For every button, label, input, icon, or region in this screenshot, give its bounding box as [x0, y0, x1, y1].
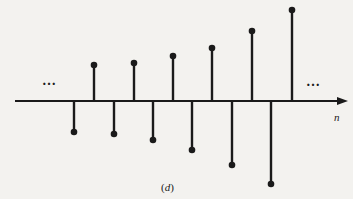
stem: [229, 101, 236, 168]
left-ellipsis: …: [42, 76, 57, 86]
stem: [268, 101, 275, 187]
axis-arrow-icon: [337, 97, 348, 105]
stem: [249, 28, 256, 101]
stem-dot-marker: [71, 129, 78, 136]
stem-dot-marker: [131, 60, 138, 67]
stem: [189, 101, 196, 153]
stem: [71, 101, 78, 135]
stem: [170, 53, 177, 101]
figure-caption: (d): [161, 181, 174, 193]
stem-dot-marker: [111, 131, 118, 138]
stem-dot-marker: [91, 62, 98, 69]
stem: [131, 60, 138, 101]
stem: [209, 45, 216, 101]
stem-dot-marker: [209, 45, 216, 52]
stem-dot-marker: [189, 147, 196, 154]
stem: [289, 7, 296, 101]
stem: [150, 101, 157, 143]
right-ellipsis: …: [306, 77, 321, 87]
stem-dot-marker: [249, 28, 256, 35]
stem-plot: [0, 0, 353, 199]
stems: [71, 7, 296, 188]
axis-label-n: n: [334, 111, 340, 123]
horizontal-axis: [15, 97, 348, 105]
stem-dot-marker: [289, 7, 296, 14]
stem-dot-marker: [268, 181, 275, 188]
caption-close: ): [170, 181, 174, 193]
stem-dot-marker: [229, 162, 236, 169]
stem-dot-marker: [150, 137, 157, 144]
stem: [111, 101, 118, 137]
stem-dot-marker: [170, 53, 177, 60]
stem: [91, 62, 98, 101]
